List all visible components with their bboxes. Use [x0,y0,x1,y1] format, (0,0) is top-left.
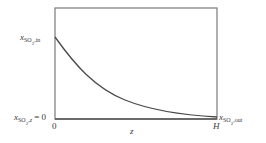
label-sub: SO2,out [223,117,242,123]
label-tail: z [30,117,32,123]
label-subnum: 2 [26,121,29,126]
label-species: SO [18,117,26,123]
label-suffix: ,out [233,117,242,123]
label-equals: = 0 [34,112,46,122]
plot-frame [55,8,217,119]
label-species: SO [223,117,231,123]
label-species: SO [24,37,32,43]
label-sub: SO2,in [24,37,40,43]
label-subnum: 2 [32,41,35,46]
label-sub: SO2,z [18,117,32,123]
y-label-zero: xSO2,z = 0 [14,112,46,122]
x-axis-label: z [130,126,134,136]
y-label-inlet: xSO2,in [20,32,40,42]
x-tick-h: H [213,121,220,131]
y-label-outlet: xSO2,out [219,112,242,122]
label-subnum: 2 [231,121,234,126]
label-suffix: ,in [34,37,40,43]
x-tick-zero: 0 [52,121,57,131]
decay-curve [55,37,217,117]
